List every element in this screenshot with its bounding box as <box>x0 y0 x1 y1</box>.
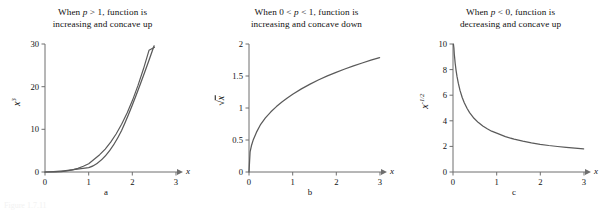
panel-c: When p < 0, function is decreasing and c… <box>408 0 613 213</box>
panel-c-ytick-label-4: 4 <box>424 116 447 126</box>
panel-a-ytick-label-0: 0 <box>18 167 39 177</box>
panel-c-ytick-label-8: 8 <box>424 65 447 75</box>
panel-a-letter: a <box>98 187 114 197</box>
panel-a-xtick-label-2: 2 <box>122 177 142 187</box>
panel-a-x-axis-arrow <box>177 169 183 175</box>
panel-c-x-axis-arrow <box>585 169 591 175</box>
panel-c-xtick-label-3: 3 <box>574 177 594 187</box>
power-function-figure: When p > 1, function is increasing and c… <box>0 0 613 213</box>
figure-caption: Figure 1.7.11 <box>4 201 47 210</box>
panel-b-xtick-label-3: 3 <box>370 177 390 187</box>
panel-a-xtick-label-0: 0 <box>35 177 55 187</box>
panel-a-x-axis-name: x <box>186 166 190 176</box>
panel-a-ytick-label-20: 20 <box>18 82 39 92</box>
panel-b-curve <box>249 58 380 172</box>
panel-b: When 0 < p < 1, function is increasing a… <box>204 0 409 213</box>
panel-b-ytick-label-0-5: 0.5 <box>220 135 243 145</box>
panel-b-xtick-label-2: 2 <box>326 177 346 187</box>
panel-c-x-axis-name: x <box>594 166 598 176</box>
panel-a-y-axis-label: x3 <box>10 90 22 114</box>
panel-c-curve <box>453 44 583 149</box>
panel-b-letter: b <box>302 187 318 197</box>
panel-c-ytick-label-2: 2 <box>424 141 447 151</box>
panel-c-xtick-label-2: 2 <box>530 177 550 187</box>
panel-b-x-axis-name: x <box>390 166 394 176</box>
panel-c-ytick-label-10: 10 <box>422 39 447 49</box>
panel-b-ytick-label-0: 0 <box>220 167 243 177</box>
panel-b-ytick-label-1: 1 <box>220 103 243 113</box>
panel-a-ytick-label-10: 10 <box>18 124 39 134</box>
panel-c-ytick-label-0: 0 <box>424 167 447 177</box>
panel-a-curve <box>45 47 155 172</box>
panel-b-xtick-label-0: 0 <box>239 177 259 187</box>
panel-c-letter: c <box>506 187 522 197</box>
panel-b-ytick-label-2: 2 <box>220 39 243 49</box>
panel-c-plot: x-1/2 0 2 4 6 8 10 0 1 2 3 x c <box>408 0 613 213</box>
panel-b-ytick-label-1-5: 1.5 <box>220 71 243 81</box>
panel-c-xtick-label-1: 1 <box>487 177 507 187</box>
panel-a-xtick-label-1: 1 <box>79 177 99 187</box>
panel-a-ytick-label-30: 30 <box>18 39 39 49</box>
panel-c-ytick-label-6: 6 <box>424 90 447 100</box>
panel-a-xtick-label-3: 3 <box>166 177 186 187</box>
panel-b-x-axis-arrow <box>381 169 387 175</box>
panel-a-curve-smooth <box>45 46 154 172</box>
panel-a: When p > 1, function is increasing and c… <box>0 0 205 213</box>
panel-b-plot: √x 0 0.5 1 1.5 2 0 1 2 3 x b <box>204 0 409 213</box>
panel-c-xtick-label-0: 0 <box>443 177 463 187</box>
panel-b-xtick-label-1: 1 <box>283 177 303 187</box>
panel-a-plot: x3 0 10 20 30 0 1 2 3 x a <box>0 0 205 213</box>
